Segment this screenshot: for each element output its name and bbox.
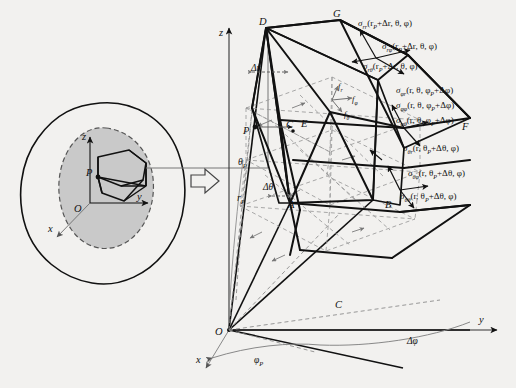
main-point-P-label: P [243,126,249,137]
vertex-A-label: A [288,200,294,211]
vertex-C-label: C [286,120,293,131]
point-P-left-dot [96,175,101,180]
main-axis-z-label: z [219,28,223,39]
magnify-arrow-shape [191,169,219,193]
r-P-label: rP [237,194,245,205]
stress-thetatheta-label: σθθ(r, θP+Δθ, φ) [400,192,457,203]
stress-thetar-label: σθr(r, θP+Δθ, φ) [403,144,459,155]
hidden-construction-mesh [240,77,420,251]
main-axis-x-label: x [196,355,201,366]
vertex-D-label: D [259,17,267,28]
phi-P-label: φP [254,356,263,367]
body-force-theta-label: fθ [344,110,349,121]
stress-phiphi-label: σφφ(r, θ, φP+Δφ) [396,101,454,112]
stress-phir-label: σφr(r, θ, φP+Δφ) [396,86,453,97]
stress-rr-label: σrr(rP+Δr, θ, φ) [358,19,412,30]
stress-rtheta-label: σrθ(rP+Δr, θ, φ) [363,62,418,73]
left-axis-x-label: x [48,224,53,235]
left-axis-y-label: y [137,192,142,203]
vertex-E-label: E [301,119,307,130]
body-force-phi-label: fφ [352,95,358,106]
theta-P-label: θP [238,158,247,169]
cut-plane-shaded [59,128,154,249]
element-bold-edges [252,20,470,258]
left-point-P-label: P [86,168,92,179]
left-origin-label: O [74,204,82,215]
stress-thetaphi-label: σθφ(r, θP+Δθ, φ) [408,169,465,180]
vertex-G-label: G [333,9,341,20]
point-P-main-dot [253,125,258,130]
left-axis-z-label: z [82,132,86,143]
stress-phitheta-label: σφθ(r, θ, φP+Δφ) [396,116,454,127]
stress-rphi-label: σrφ(rP+Δr, θ, φ) [382,42,437,53]
main-origin-label: O [215,327,223,338]
body-force-r-label: fr [338,82,343,93]
vertex-B-label: B [385,200,391,211]
delta-phi-label: Δφ [407,337,418,347]
main-axis-y-label: y [479,315,484,326]
arc-delta-phi [320,322,470,345]
vertex-F-label: F [462,122,468,133]
delta-theta-label: Δθ [263,183,273,193]
figure-canvas: z y x O P z y x O D G C E F A B P C Δr Δ… [0,0,516,388]
callout-line-upper [146,28,268,168]
delta-r-label: Δr [251,64,260,74]
vertex-C-base-label: C [335,300,342,311]
